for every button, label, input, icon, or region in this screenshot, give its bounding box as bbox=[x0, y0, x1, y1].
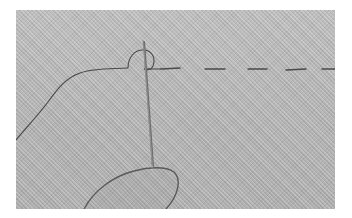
sewing-photo bbox=[16, 10, 335, 209]
running-stitch bbox=[161, 68, 335, 70]
loose-thread bbox=[16, 68, 128, 140]
fingertip-outline bbox=[84, 168, 178, 209]
sewing-illustration bbox=[16, 10, 335, 209]
needle bbox=[143, 40, 154, 170]
thread-loop bbox=[128, 50, 154, 70]
